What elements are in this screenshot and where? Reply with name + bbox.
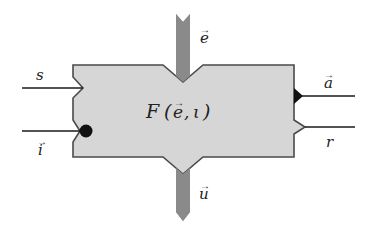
vector-arrow-i-icon: → [37, 136, 47, 147]
bus-bar-top-segment [176, 14, 190, 82]
label-s: s [36, 66, 44, 84]
vector-arrow-u-icon: → [200, 180, 210, 191]
svg-text:F: F [145, 100, 160, 122]
svg-text:,: , [184, 102, 189, 122]
input-port-dot-icon [80, 125, 93, 138]
label-r: r [326, 133, 334, 151]
block-diagram: s i → e → a → r u → F ( e → , ι ) [0, 0, 372, 232]
vector-arrow-e-icon: → [200, 24, 210, 35]
svg-text:ι: ι [193, 102, 200, 122]
vector-arrow-arg-icon: → [174, 97, 184, 108]
vector-arrow-a-icon: → [324, 69, 334, 80]
bus-bar-bottom-segment [176, 168, 190, 221]
svg-text:(: ( [164, 100, 172, 122]
svg-text:): ) [202, 100, 210, 122]
